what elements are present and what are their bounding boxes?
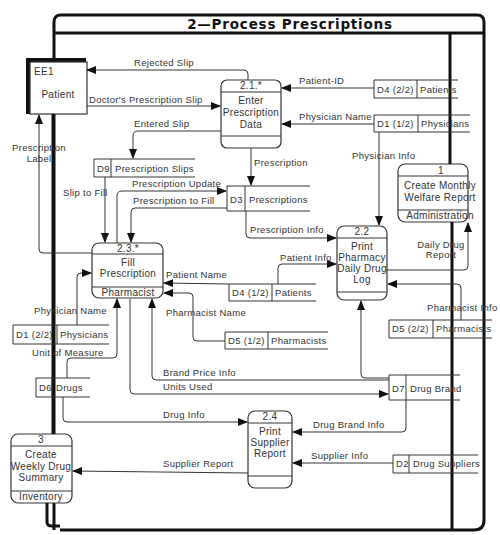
diagram-title: 2—Process Prescriptions: [187, 16, 393, 32]
flow-label: Prescription Update: [132, 178, 221, 189]
flow-pharmacist-name: Pharmacist Name: [164, 293, 246, 341]
flow-prescription: Prescription: [251, 148, 308, 185]
data-store-d2-drug-suppliers[interactable]: D2 Drug Suppliers: [393, 455, 480, 473]
data-store-d9-prescription-slips[interactable]: D9 Prescription Slips: [94, 159, 195, 177]
flow-d7-to-2-2: [361, 301, 389, 378]
process-id: 2.4: [263, 411, 278, 422]
flow-pharmacist-info: Pharmacist Info: [388, 284, 498, 320]
data-store-name: Patients: [275, 287, 312, 298]
process-name-line: Create Monthly: [404, 180, 476, 191]
data-store-name: Physicians: [421, 118, 469, 129]
data-store-name: Patients: [420, 84, 457, 95]
process-name-line: Pharmacy: [338, 252, 385, 263]
flow-label: Report: [426, 249, 456, 260]
flow-label: Physician Name: [34, 305, 107, 316]
data-store-d1-physicians-1[interactable]: D1 (1/2) Physicians: [374, 115, 470, 132]
flow-label: Label: [27, 153, 52, 164]
flow-drug-info: Drug Info: [63, 397, 247, 422]
process-name-line: Weekly Drug: [11, 461, 71, 472]
process-3-create-weekly-drug-summary[interactable]: 3 Create Weekly Drug Summary Inventory: [11, 434, 72, 503]
data-store-name: Physicians: [60, 329, 108, 340]
process-name-line: Enter: [238, 95, 264, 106]
process-name-line: Daily Drug: [337, 263, 387, 274]
flow-supplier-info: Supplier Info: [293, 450, 393, 463]
data-store-name: Pharmacists: [271, 335, 327, 346]
process-name-line: Print: [351, 241, 373, 252]
data-store-d3-prescriptions[interactable]: D3 Prescriptions: [227, 186, 310, 211]
flow-rejected-slip: Rejected Slip: [87, 57, 248, 80]
flow-label: Rejected Slip: [134, 57, 194, 68]
process-id: 2.1.*: [240, 80, 262, 91]
process-id: 2.2: [355, 226, 370, 237]
data-store-d5-pharmacists-1[interactable]: D5 (1/2) Pharmacists: [225, 332, 328, 349]
flow-label: Patient Info: [280, 252, 332, 263]
process-name-line: Log: [353, 274, 371, 285]
flow-patient-name: Patient Name: [164, 269, 229, 284]
flow-label: Prescription: [254, 157, 308, 168]
flow-prescription-update: Prescription Update: [117, 178, 226, 243]
data-store-name: Drug Suppliers: [413, 458, 480, 469]
data-store-id: D5 (1/2): [228, 335, 265, 346]
flow-slip-to-fill: Slip to Fill: [63, 177, 108, 242]
flow-prescription-to-fill: Prescription to Fill: [131, 195, 227, 242]
data-store-d5-pharmacists-2[interactable]: D5 (2/2) Pharmacists: [389, 320, 492, 338]
external-entity-patient[interactable]: EE1 Patient: [26, 58, 87, 114]
data-store-d6-drugs[interactable]: D6 Drugs: [36, 378, 90, 397]
process-name-line: Welfare Report: [404, 192, 475, 203]
data-store-id: D1 (2/2): [16, 329, 53, 340]
process-name-line: Report: [254, 448, 286, 459]
entity-name: Patient: [41, 89, 74, 100]
flow-label: Pharmacist Info: [427, 302, 498, 313]
flow-supplier-report: Supplier Report: [73, 458, 248, 473]
data-store-id: D7: [392, 383, 405, 394]
flow-label: Units Used: [163, 381, 212, 392]
flow-label: Physician Info: [352, 150, 415, 161]
flow-label: Prescription Info: [250, 224, 324, 235]
data-store-name: Prescription Slips: [115, 163, 194, 174]
process-name-line: Print: [259, 426, 281, 437]
process-2-4-print-supplier-report[interactable]: 2.4 Print Supplier Report: [248, 411, 292, 488]
flow-patient-id: Patient-ID: [282, 75, 374, 88]
process-name-line: Supplier: [250, 437, 289, 448]
flow-label: Doctor's Prescription Slip: [89, 94, 203, 105]
process-2-2-print-pharmacy-daily-drug-log[interactable]: 2.2 Print Pharmacy Daily Drug Log: [337, 226, 387, 300]
flow-daily-drug-report: Daily Drug Report: [387, 223, 468, 270]
process-id: 2.3.*: [117, 243, 139, 254]
entity-id: EE1: [34, 66, 54, 77]
data-store-d4-patients-1[interactable]: D4 (1/2) Patients: [229, 284, 316, 301]
data-store-name: Drug Brand: [410, 383, 462, 394]
flow-label: Patient-ID: [299, 75, 344, 86]
process-name-line: Prescription: [223, 107, 279, 118]
process-1-create-monthly-welfare-report[interactable]: 1 Create Monthly Welfare Report Administ…: [398, 164, 476, 222]
process-name-line: Data: [240, 119, 262, 130]
data-store-id: D6: [39, 382, 52, 393]
data-flow-diagram: 2—Process Prescriptions EE1 Patient 2.1.…: [0, 0, 500, 535]
data-store-id: D5 (2/2): [392, 323, 429, 334]
flow-patient-info: Patient Info: [278, 252, 336, 284]
flow-label: Supplier Info: [311, 450, 368, 461]
data-store-id: D4 (2/2): [377, 84, 414, 95]
process-name-line: Create: [25, 449, 57, 460]
process-name-line: Fill: [121, 257, 135, 268]
flow-label: Entered Slip: [134, 118, 189, 129]
flow-doctors-prescription-slip: Doctor's Prescription Slip: [87, 94, 220, 106]
flow-label: Prescription to Fill: [133, 195, 215, 206]
flow-label: Drug Info: [163, 409, 205, 420]
process-actor: Pharmacist: [101, 287, 154, 298]
process-actor: Inventory: [19, 491, 63, 502]
flow-label: Brand Price Info: [163, 367, 236, 378]
flow-drug-brand-info: Drug Brand Info: [293, 400, 406, 432]
data-store-d1-physicians-2[interactable]: D1 (2/2) Physicians: [13, 325, 109, 344]
data-store-name: Prescriptions: [249, 194, 308, 205]
flow-prescription-info: Prescription Info: [246, 211, 336, 238]
data-store-d4-patients-2[interactable]: D4 (2/2) Patients: [374, 80, 458, 98]
data-store-id: D2: [396, 458, 409, 469]
process-2-1-enter-prescription-data[interactable]: 2.1.* Enter Prescription Data: [221, 80, 281, 148]
flow-label: Drug Brand Info: [313, 419, 385, 430]
flow-label: Supplier Report: [163, 458, 234, 469]
flow-entered-slip: Entered Slip: [133, 118, 221, 158]
process-name-line: Prescription: [100, 268, 156, 279]
process-id: 1: [438, 165, 444, 176]
data-store-id: D9: [97, 163, 110, 174]
process-2-3-fill-prescription[interactable]: 2.3.* Fill Prescription Pharmacist: [92, 243, 163, 298]
